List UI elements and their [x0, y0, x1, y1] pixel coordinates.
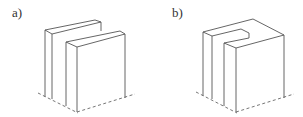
diagram-canvas — [0, 0, 303, 117]
figure-b-drawing — [196, 19, 294, 113]
figure-a-drawing — [38, 20, 135, 113]
